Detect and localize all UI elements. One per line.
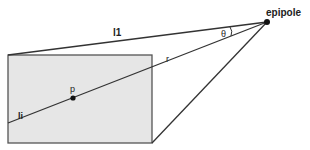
li-label: li bbox=[18, 111, 23, 121]
epipole-label: epipole bbox=[266, 7, 301, 18]
r-label: r bbox=[166, 54, 169, 64]
line-bottom-corner bbox=[152, 22, 267, 143]
line-l1 bbox=[8, 22, 267, 55]
theta-label: θ bbox=[221, 29, 226, 39]
l1-label: l1 bbox=[113, 27, 122, 38]
epipole-point bbox=[264, 19, 270, 25]
epipolar-diagram: epipole l1 θ r p li bbox=[0, 0, 310, 150]
image-plane bbox=[8, 55, 152, 143]
point-p bbox=[70, 95, 75, 100]
theta-arc bbox=[230, 27, 232, 36]
p-label: p bbox=[70, 84, 75, 94]
